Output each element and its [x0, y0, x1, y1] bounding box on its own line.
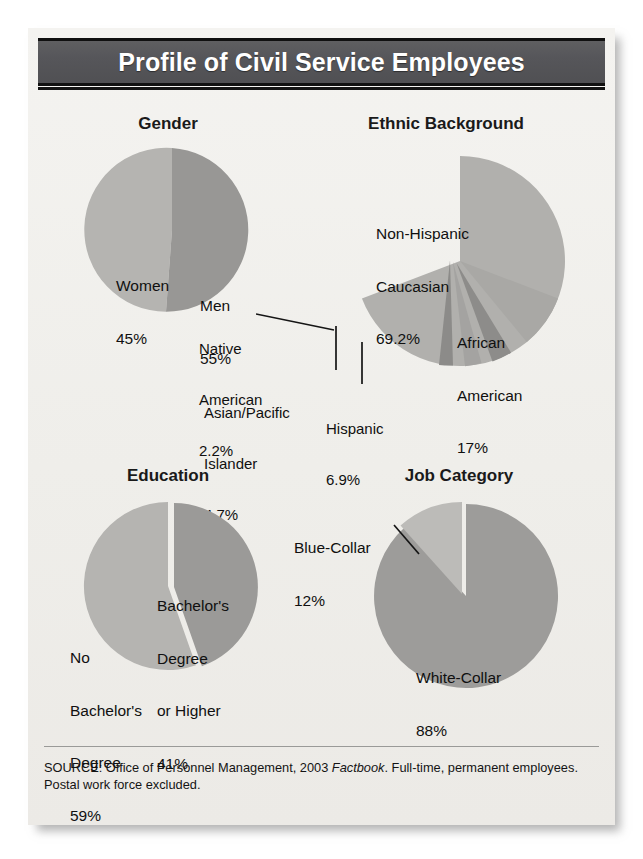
- infographic-canvas: Profile of Civil Service Employees Gende…: [0, 0, 643, 859]
- source-prefix: SOURCE: Office of Personnel Management, …: [44, 760, 332, 775]
- source-note: SOURCE: Office of Personnel Management, …: [44, 759, 604, 793]
- label-no-bachelors-degree: No Bachelor's Degree 59%: [70, 614, 142, 859]
- page-title: Profile of Civil Service Employees: [118, 48, 524, 77]
- label-white-collar: White-Collar 88%: [416, 634, 501, 774]
- panel-ethnic-background: Ethnic Background: [308, 114, 608, 414]
- leader-line-native-american: [256, 310, 346, 336]
- panel-education: Education Bachelor's Degree or Higher 41…: [28, 466, 308, 716]
- source-divider: [44, 746, 599, 747]
- title-band: Profile of Civil Service Employees: [38, 38, 605, 86]
- leader-line-asian-pacific-islander: [334, 326, 340, 372]
- label-non-hispanic-caucasian: Non-Hispanic Caucasian 69.2%: [376, 190, 469, 383]
- infographic-card: Profile of Civil Service Employees Gende…: [28, 28, 615, 825]
- label-blue-collar: Blue-Collar 12%: [294, 504, 371, 644]
- panel-job-category: Job Category Blue-Collar 12%: [318, 466, 608, 716]
- panel-title-ethnic: Ethnic Background: [296, 114, 596, 134]
- panel-title-job-category: Job Category: [314, 466, 604, 486]
- source-italic-title: Factbook: [332, 760, 385, 775]
- panel-title-gender: Gender: [28, 114, 308, 134]
- label-african-american: African American 17%: [457, 299, 522, 492]
- leader-line-blue-collar: [393, 524, 423, 558]
- leader-line-hispanic: [360, 342, 366, 386]
- panel-title-education: Education: [28, 466, 308, 486]
- label-women: Women 45%: [116, 242, 169, 382]
